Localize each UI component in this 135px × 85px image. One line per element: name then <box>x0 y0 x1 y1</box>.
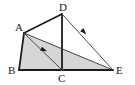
vertex-label-d: D <box>59 1 67 13</box>
figure-canvas: ABCDE <box>0 0 135 85</box>
vertex-label-c: C <box>58 72 65 84</box>
figure-background <box>0 0 135 85</box>
vertex-label-a: A <box>15 21 23 33</box>
vertex-label-b: B <box>8 64 15 76</box>
vertex-label-e: E <box>116 64 123 76</box>
geometry-figure: ABCDE <box>0 0 135 85</box>
